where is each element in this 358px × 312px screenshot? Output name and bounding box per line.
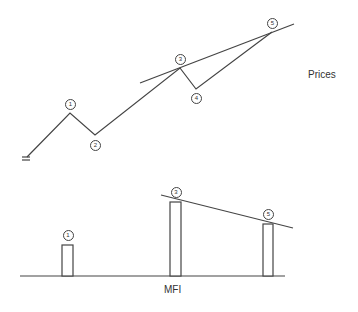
mfi-bar-label-1: 1 — [63, 230, 74, 241]
mfi-bar-5 — [263, 224, 273, 276]
price-point-label-3: 3 — [175, 54, 186, 65]
price-path — [27, 32, 272, 157]
prices-label: Prices — [308, 69, 336, 80]
start-marker-icon — [22, 157, 30, 160]
mfi-bar-label-3: 3 — [171, 187, 182, 198]
mfi-bar-1 — [62, 245, 73, 276]
price-point-label-4: 4 — [191, 93, 202, 104]
mfi-label: MFI — [164, 284, 181, 295]
price-chart — [22, 24, 294, 160]
price-point-label-1: 1 — [65, 99, 76, 110]
mfi-bar-label-5: 5 — [263, 209, 274, 220]
diagram-canvas — [0, 0, 358, 312]
mfi-bar-3 — [170, 202, 181, 276]
price-uptrend-line — [140, 24, 294, 83]
price-point-label-5: 5 — [267, 18, 278, 29]
price-point-label-2: 2 — [90, 140, 101, 151]
mfi-chart — [20, 195, 293, 276]
